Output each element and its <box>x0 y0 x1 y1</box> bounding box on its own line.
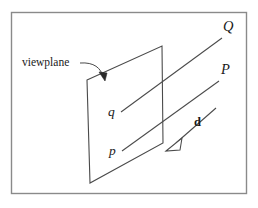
point-q-label: q <box>108 105 115 119</box>
point-P-label: P <box>221 62 230 77</box>
diagram-canvas <box>0 0 258 208</box>
point-Q-label: Q <box>223 19 233 34</box>
viewplane-parallelogram <box>87 46 163 183</box>
viewplane-callout-arrowhead-icon <box>99 72 107 81</box>
viewplane-label: viewplane <box>22 57 69 69</box>
outer-frame <box>12 13 247 194</box>
vector-d-arrowhead-icon <box>166 138 182 151</box>
point-p-label: p <box>109 144 116 158</box>
ray-p-to-P-line <box>122 81 219 151</box>
vector-d-label: d <box>194 116 201 129</box>
viewplane-diagram: viewplane q p Q P d <box>0 0 258 208</box>
ray-q-to-Q-line <box>121 38 222 112</box>
